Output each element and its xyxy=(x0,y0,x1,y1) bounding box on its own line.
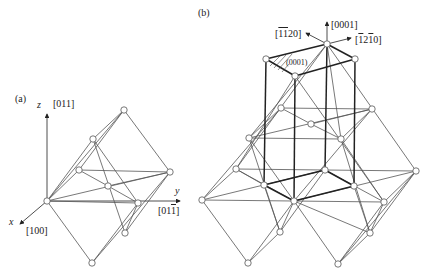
z-axis-label: z xyxy=(37,100,41,110)
a-right-arrow xyxy=(327,38,351,44)
panel-b-structure xyxy=(202,44,416,264)
panel-a-structure xyxy=(20,110,180,263)
y-direction-label: [011] xyxy=(158,206,179,216)
x-axis-label: x xyxy=(9,217,13,227)
z-direction-label: [011] xyxy=(53,99,74,109)
c-axis-direction-label: [0001] xyxy=(331,20,358,30)
panel-b-label: (b) xyxy=(198,8,210,18)
panel-b-atoms xyxy=(199,41,419,267)
panel-a-label: (a) xyxy=(15,94,26,104)
basal-plane-label: (0001) xyxy=(286,59,307,67)
right-direction-label: [1210] xyxy=(355,35,382,45)
x-axis-arrow xyxy=(20,201,47,224)
left-direction-label: [1120] xyxy=(275,29,301,39)
y-axis-label: y xyxy=(175,186,179,196)
x-direction-label: [100] xyxy=(26,226,48,236)
